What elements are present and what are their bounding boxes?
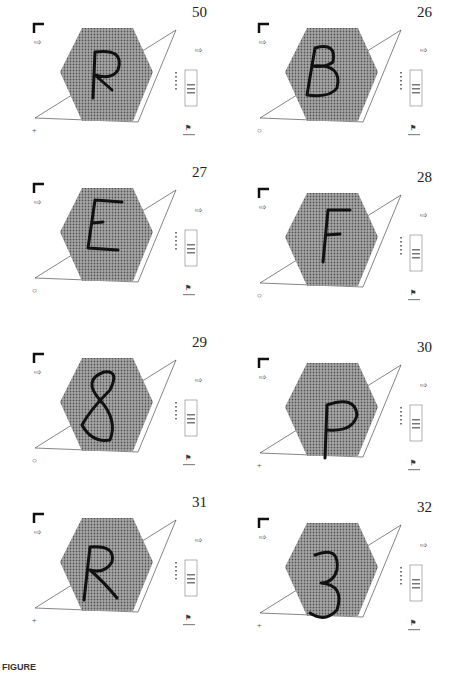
arrow-icon: ⇨ [259,532,267,542]
corner-bracket-icon [34,354,44,363]
panel-graphic: ⇨ ⇨ ⚑ + [225,495,450,660]
panel-graphic: ⇨ ⇨ ⚑ + [225,335,450,500]
hexagon-pattern [60,28,153,121]
corner-marker: ○ [257,291,262,300]
arrow-icon: ⇨ [195,205,203,215]
logo-icon: ⚑ [410,459,416,467]
panel-graphic: ⇨ ⇨ ⚑ + [0,490,225,655]
figure-panel: ⇨ ⇨ ⚑ ○ 27 [0,160,225,325]
arrow-icon: ⇨ [195,45,203,55]
panel-number: 50 [192,4,207,21]
logo-icon: ⚑ [410,619,416,627]
arrow-icon: ⇨ [259,202,267,212]
logo-icon: ⚑ [185,454,191,462]
corner-marker: ○ [32,456,37,465]
logo-icon: ⚑ [185,614,191,622]
arrow-icon: ⇨ [259,37,267,47]
panel-number: 29 [192,334,207,351]
corner-marker: + [32,616,37,625]
corner-bracket-icon [259,189,269,198]
figure-panel: ⇨ ⇨ ⚑ + 31 [0,490,225,655]
figure-panel: ⇨ ⇨ ⚑ + 30 [225,335,450,500]
corner-bracket-icon [259,519,269,528]
corner-marker: + [257,461,262,470]
hexagon-pattern [285,193,378,286]
arrow-icon: ⇨ [420,380,428,390]
corner-marker: ○ [32,286,37,295]
panel-graphic: ⇨ ⇨ ⚑ ○ [225,165,450,330]
hexagon-pattern [60,518,153,611]
panel-number: 31 [192,494,207,511]
corner-marker: ○ [257,126,262,135]
panel-number: 26 [417,4,432,21]
figure-panel: ⇨ ⇨ ⚑ + 32 [225,495,450,660]
arrow-icon: ⇨ [259,372,267,382]
logo-icon: ⚑ [410,124,416,132]
panel-number: 30 [417,339,432,356]
corner-bracket-icon [34,514,44,523]
panel-number: 28 [417,169,432,186]
corner-marker: + [257,621,262,630]
logo-icon: ⚑ [185,284,191,292]
panel-number: 32 [417,499,432,516]
figure-panel: ⇨ ⇨ ⚑ ○ 28 [225,165,450,330]
hexagon-pattern [285,523,378,616]
arrow-icon: ⇨ [195,375,203,385]
panel-graphic: ⇨ ⇨ ⚑ ○ [0,160,225,325]
arrow-icon: ⇨ [420,540,428,550]
arrow-icon: ⇨ [34,367,42,377]
logo-icon: ⚑ [185,124,191,132]
arrow-icon: ⇨ [34,37,42,47]
arrow-icon: ⇨ [195,535,203,545]
panel-graphic: ⇨ ⇨ ⚑ ○ [225,0,450,165]
corner-bracket-icon [259,359,269,368]
figure-caption: FIGURE [2,662,36,672]
panel-graphic: ⇨ ⇨ ⚑ ○ [0,330,225,495]
arrow-icon: ⇨ [420,45,428,55]
corner-bracket-icon [34,184,44,193]
logo-icon: ⚑ [410,289,416,297]
hexagon-pattern [285,363,378,456]
corner-marker: + [32,126,37,135]
panel-number: 27 [192,164,207,181]
arrow-icon: ⇨ [420,210,428,220]
panel-graphic: ⇨ ⇨ ⚑ + [0,0,225,165]
corner-bracket-icon [34,24,44,33]
arrow-icon: ⇨ [34,527,42,537]
corner-bracket-icon [259,24,269,33]
figure-panel: ⇨ ⇨ ⚑ ○ 29 [0,330,225,495]
figure-panel: ⇨ ⇨ ⚑ ○ 26 [225,0,450,165]
figure-panel: ⇨ ⇨ ⚑ + 50 [0,0,225,165]
arrow-icon: ⇨ [34,197,42,207]
hexagon-pattern [285,28,378,121]
